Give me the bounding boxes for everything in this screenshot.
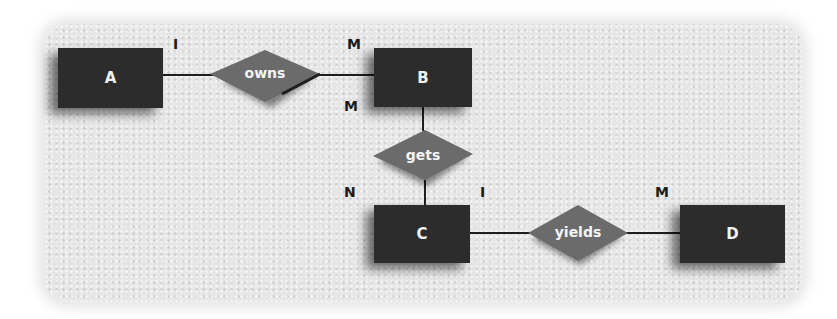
relationship-owns: owns [210, 48, 320, 104]
entity-b: B [374, 48, 472, 107]
er-diagram-canvas: A B C D owns gets yields I M M N I M [0, 0, 837, 319]
entity-c: C [374, 205, 470, 263]
cardinality-a-owns: I [173, 36, 178, 52]
cardinality-b-gets: M [344, 98, 358, 114]
line-c-yields [470, 232, 532, 234]
cardinality-b-owns: M [347, 36, 361, 52]
entity-a-label: A [105, 69, 117, 87]
cardinality-c-yields: I [480, 184, 485, 200]
entity-d: D [680, 205, 785, 263]
relationship-yields-label: yields [555, 224, 602, 240]
relationship-owns-label: owns [245, 65, 286, 81]
relationship-yields: yields [528, 205, 628, 261]
cardinality-c-gets: N [344, 184, 356, 200]
line-yields-d [625, 232, 682, 234]
line-b-gets [422, 107, 424, 131]
relationship-gets-label: gets [406, 147, 441, 163]
relationship-gets: gets [373, 130, 473, 182]
entity-d-label: D [726, 225, 738, 243]
cardinality-d-yields: M [655, 184, 669, 200]
entity-c-label: C [416, 225, 427, 243]
entity-a: A [58, 48, 163, 108]
entity-b-label: B [417, 69, 428, 87]
